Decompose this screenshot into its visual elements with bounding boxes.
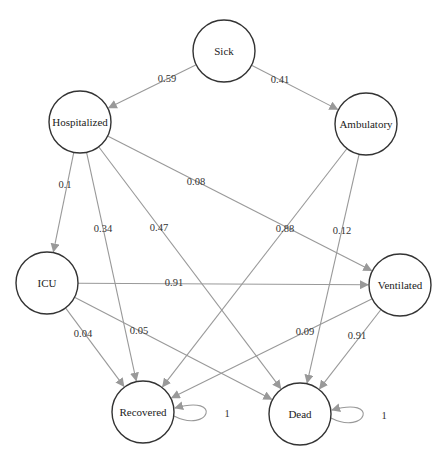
node-label-recovered: Recovered [119, 406, 167, 418]
edge-label-icu-to-ventilated: 0.91 [165, 277, 183, 288]
edge-label-ambulatory-to-recovered: 0.88 [276, 223, 294, 234]
edge-icu-to-ventilated [78, 283, 368, 285]
edge-recovered-to-recovered [174, 405, 206, 421]
edge-sick-to-ambulatory [252, 65, 338, 109]
edge-sick-to-hospitalized [109, 65, 196, 108]
node-label-icu: ICU [38, 277, 57, 289]
edge-ventilated-to-dead [320, 310, 381, 389]
edge-label-hospitalized-to-recovered: 0.34 [94, 223, 113, 234]
node-label-dead: Dead [288, 408, 312, 420]
edge-ventilated-to-recovered [172, 299, 373, 398]
edge-dead-to-dead [331, 407, 363, 423]
node-sick: Sick [193, 20, 255, 82]
edge-label-hospitalized-to-dead: 0.47 [150, 222, 168, 233]
edge-label-hospitalized-to-ventilated: 0.08 [187, 176, 205, 187]
markov-chain-diagram: 0.590.410.10.080.340.470.880.120.910.040… [0, 0, 447, 459]
node-hospitalized: Hospitalized [49, 91, 111, 153]
edge-hospitalized-to-ventilated [108, 136, 372, 270]
edge-icu-to-dead [75, 297, 272, 399]
edge-label-icu-to-recovered: 0.04 [74, 328, 93, 339]
edge-label-sick-to-hospitalized: 0.59 [158, 73, 176, 84]
edge-label-dead-to-dead: 1 [381, 410, 386, 421]
edge-label-ambulatory-to-dead: 0.12 [333, 225, 351, 236]
edge-label-hospitalized-to-icu: 0.1 [58, 179, 71, 190]
edge-label-sick-to-ambulatory: 0.41 [271, 74, 289, 85]
edge-label-recovered-to-recovered: 1 [224, 408, 229, 419]
node-ventilated: Ventilated [369, 254, 431, 316]
node-ambulatory: Ambulatory [335, 93, 397, 155]
edge-label-ventilated-to-dead: 0.91 [348, 330, 366, 341]
edge-label-icu-to-dead: 0.05 [130, 325, 148, 336]
node-label-sick: Sick [214, 45, 234, 57]
node-label-ventilated: Ventilated [378, 279, 423, 291]
node-label-hospitalized: Hospitalized [52, 116, 108, 128]
edge-icu-to-recovered [66, 308, 124, 386]
node-dead: Dead [269, 383, 331, 445]
nodes-layer: SickHospitalizedAmbulatoryICUVentilatedR… [16, 20, 431, 445]
node-label-ambulatory: Ambulatory [339, 118, 393, 130]
node-icu: ICU [16, 252, 78, 314]
edge-hospitalized-to-icu [53, 152, 73, 251]
edge-label-ventilated-to-recovered: 0.09 [296, 326, 314, 337]
node-recovered: Recovered [112, 381, 174, 443]
